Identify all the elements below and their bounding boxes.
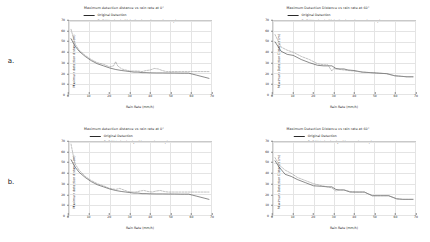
y-tick-mark [271, 30, 273, 31]
y-tick-mark [271, 52, 273, 53]
x-tick-label: 60 [394, 94, 398, 98]
x-tick-label: 70 [210, 215, 214, 219]
panel-a-right: Maximum Detection Distance vs rain rate … [226, 0, 430, 121]
y-tick-mark [271, 84, 273, 85]
y-tick-label: 0 [267, 93, 269, 97]
y-tick-mark [67, 95, 69, 96]
y-tick-label: 50 [265, 39, 269, 43]
x-tick-label: 70 [414, 94, 418, 98]
y-tick-label: 50 [61, 39, 65, 43]
y-tick-mark [67, 173, 69, 174]
y-tick-label: 60 [265, 150, 269, 154]
legend-swatch-solid-icon [288, 15, 299, 16]
panel-a-left: Maximum detection distance vs rain rate … [22, 0, 226, 121]
y-tick-label: 10 [265, 203, 269, 207]
data-series-line [71, 144, 209, 192]
y-tick-label: 20 [265, 72, 269, 76]
y-tick-mark [271, 194, 273, 195]
y-axis-ticks: 010203040506070 [58, 141, 67, 216]
figure-row-a: a. Maximum detection distance vs rain ra… [0, 0, 430, 121]
y-tick-label: 10 [61, 82, 65, 86]
legend-swatch-solid-icon [90, 136, 101, 137]
y-tick-label: 30 [61, 61, 65, 65]
x-tick-label: 70 [414, 215, 418, 219]
x-tick-label: 40 [352, 94, 356, 98]
y-tick-label: 40 [265, 171, 269, 175]
panel-title: Maximum Detection Distance vs rain rate … [226, 127, 430, 131]
x-axis-label: Rain Rate (mm/h) [68, 105, 212, 109]
figure-row-b: b. Maximum detection distance vs rain ra… [0, 121, 430, 242]
x-tick-label: 20 [107, 94, 111, 98]
y-tick-mark [67, 151, 69, 152]
x-tick-label: 30 [128, 215, 132, 219]
chart-lines [273, 142, 415, 215]
y-tick-mark [271, 63, 273, 64]
panel-title: Maximum detection distance vs rain rate … [22, 6, 226, 10]
legend-label: Original Detection [308, 134, 337, 138]
x-tick-label: 50 [169, 94, 173, 98]
y-tick-label: 70 [61, 139, 65, 143]
x-tick-label: 40 [148, 94, 152, 98]
panel-title: Maximum Detection Distance vs rain rate … [226, 6, 430, 10]
chart-lines [273, 21, 415, 94]
data-series-line [275, 161, 413, 200]
legend-swatch-solid-icon [84, 15, 95, 16]
x-tick-label: 30 [332, 94, 336, 98]
y-tick-mark [271, 184, 273, 185]
x-tick-label: 10 [87, 215, 91, 219]
y-tick-mark [67, 184, 69, 185]
panel-title: Maximum detection distance vs rain rate … [22, 127, 226, 131]
plot-area [68, 20, 212, 95]
plot-area [272, 20, 416, 95]
x-tick-label: 50 [169, 215, 173, 219]
x-tick-label: 60 [394, 215, 398, 219]
x-tick-label: 20 [311, 94, 315, 98]
y-tick-label: 70 [265, 18, 269, 22]
x-tick-label: 30 [128, 94, 132, 98]
y-tick-label: 30 [61, 182, 65, 186]
x-tick-label: 50 [373, 215, 377, 219]
y-tick-label: 10 [61, 203, 65, 207]
x-tick-label: 60 [190, 94, 194, 98]
x-tick-label: 10 [291, 94, 295, 98]
chart-lines [69, 21, 211, 94]
y-tick-mark [271, 173, 273, 174]
data-series-line [71, 29, 209, 71]
y-tick-label: 60 [61, 150, 65, 154]
y-tick-mark [67, 205, 69, 206]
y-tick-mark [67, 141, 69, 142]
y-tick-label: 40 [61, 171, 65, 175]
y-tick-mark [67, 194, 69, 195]
legend-item: Original Detection [294, 134, 375, 138]
x-axis-label: Rain Rate (mm/h) [272, 105, 416, 109]
y-tick-mark [67, 41, 69, 42]
y-tick-mark [67, 63, 69, 64]
figure-grid: a. Maximum detection distance vs rain ra… [0, 0, 430, 242]
y-tick-label: 50 [61, 160, 65, 164]
x-tick-label: 70 [210, 94, 214, 98]
y-axis-ticks: 010203040506070 [262, 141, 271, 216]
x-tick-label: 20 [107, 215, 111, 219]
y-tick-label: 0 [267, 214, 269, 218]
y-tick-label: 30 [265, 61, 269, 65]
y-tick-label: 20 [61, 72, 65, 76]
y-tick-mark [67, 73, 69, 74]
panel-b-right: Maximum Detection Distance vs rain rate … [226, 121, 430, 242]
x-tick-label: 40 [352, 215, 356, 219]
legend-item: Original Detection [84, 13, 180, 17]
y-tick-mark [67, 52, 69, 53]
panel-b-left: Maximum detection distance vs rain rate … [22, 121, 226, 242]
legend-swatch-solid-icon [294, 136, 305, 137]
legend-label: Original Detection [104, 134, 133, 138]
plot-area [68, 141, 212, 216]
plot-area [272, 141, 416, 216]
chart-lines [69, 142, 211, 215]
y-tick-mark [271, 95, 273, 96]
x-axis-ticks: 010203040506070 [68, 94, 212, 100]
x-tick-label: 20 [311, 215, 315, 219]
legend-label: Original Detection [98, 13, 127, 17]
y-tick-label: 70 [61, 18, 65, 22]
x-tick-label: 40 [148, 215, 152, 219]
y-tick-label: 40 [265, 50, 269, 54]
y-tick-mark [271, 216, 273, 217]
